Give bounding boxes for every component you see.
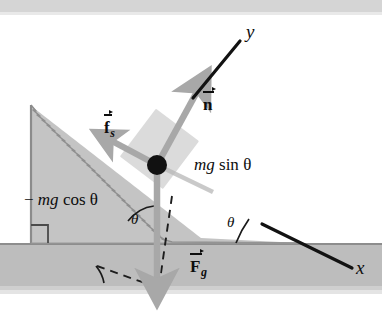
particle-dot — [147, 155, 167, 175]
parallel-component-theta: θ — [243, 155, 251, 174]
gravity-force-symbol: F — [190, 258, 200, 275]
friction-force-symbol: f — [104, 119, 110, 136]
perpendicular-component-theta: θ — [90, 190, 98, 209]
x-axis-label: x — [356, 258, 364, 277]
normal-force-label: n — [203, 96, 212, 113]
perpendicular-component-mg: mg — [38, 190, 59, 209]
perpendicular-component-minus: − — [24, 190, 34, 209]
friction-force-label: fs — [104, 119, 115, 139]
angle-label-right: θ — [227, 215, 234, 230]
perpendicular-component-cos: cos — [59, 190, 90, 209]
gravity-force-label: Fg — [190, 258, 207, 278]
angle-label-left: θ — [131, 212, 138, 227]
physics-diagram-inclined-plane: y x n fs Fg mg sin θ − mg cos θ θ θ — [0, 0, 382, 311]
normal-force-symbol: n — [203, 96, 212, 113]
angle-arc-right — [236, 219, 249, 243]
gravity-force-subscript: g — [201, 265, 207, 279]
top-edge-strip — [0, 0, 382, 12]
perpendicular-component-label: − mg cos θ — [24, 191, 98, 208]
y-axis-line — [193, 41, 240, 98]
friction-force-subscript: s — [110, 126, 115, 140]
parallel-component-sin: sin — [215, 155, 243, 174]
parallel-component-mg: mg — [194, 155, 215, 174]
parallel-component-label: mg sin θ — [194, 156, 251, 173]
y-axis-label: y — [246, 22, 254, 41]
